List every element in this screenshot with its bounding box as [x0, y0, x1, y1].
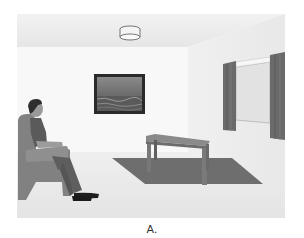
room-illustration — [0, 0, 304, 238]
curtain-right — [270, 52, 285, 140]
ceiling-lamp-icon — [120, 26, 140, 40]
framed-painting — [94, 74, 145, 114]
curtain-left — [223, 61, 236, 131]
figure-caption: A. — [0, 223, 304, 236]
window — [236, 57, 270, 123]
